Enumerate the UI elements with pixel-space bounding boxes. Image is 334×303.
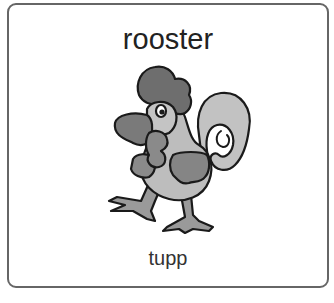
word-card[interactable]: rooster tupp bbox=[7, 3, 329, 288]
card-title: rooster bbox=[9, 22, 327, 56]
rooster-illustration bbox=[97, 60, 257, 240]
right-leg bbox=[163, 195, 213, 233]
wing bbox=[170, 152, 209, 183]
card-caption: tupp bbox=[9, 246, 327, 270]
wattle bbox=[146, 131, 168, 167]
